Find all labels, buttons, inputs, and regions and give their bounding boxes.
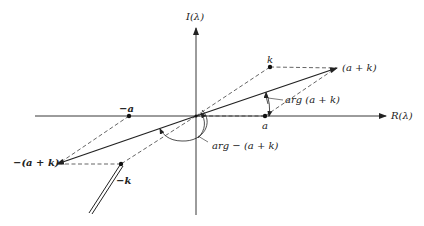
real-axis-label: R(λ) bbox=[391, 111, 413, 121]
label-a: a bbox=[262, 121, 268, 131]
label-neg-a-plus-k: −(a + k) bbox=[13, 158, 60, 168]
point-neg-a bbox=[127, 114, 131, 118]
complex-plane-diagram bbox=[0, 0, 424, 226]
branch-cut-line bbox=[89, 165, 123, 214]
vector-a-plus-k bbox=[196, 68, 337, 116]
point-neg-k bbox=[119, 162, 123, 166]
point-origin bbox=[195, 115, 198, 118]
label-arg-a-plus-k: arg (a + k) bbox=[285, 95, 340, 105]
label-neg-a: −a bbox=[119, 104, 134, 114]
label-arg-neg-a-plus-k: arg − (a + k) bbox=[212, 141, 278, 151]
arg-a-plus-k-text: arg (a + k) bbox=[285, 94, 340, 105]
arg-neg-a-plus-k-text: arg − (a + k) bbox=[212, 140, 278, 151]
point-k bbox=[268, 65, 272, 69]
imaginary-axis-label: I(λ) bbox=[186, 12, 204, 22]
label-k: k bbox=[267, 55, 273, 65]
label-neg-k: −k bbox=[116, 176, 131, 186]
point-a bbox=[263, 114, 267, 118]
label-a-plus-k: (a + k) bbox=[342, 63, 377, 73]
